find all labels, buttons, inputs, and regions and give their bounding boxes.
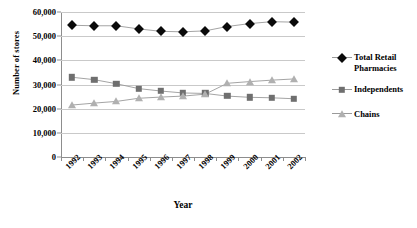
data-point-marker (223, 79, 231, 86)
y-axis-tick-label: 40,000 (33, 55, 56, 65)
data-point-marker (201, 90, 209, 97)
y-axis-tick-label: 30,000 (33, 80, 56, 90)
legend-label-chains: Chains (354, 109, 417, 120)
data-point-marker (135, 94, 143, 101)
x-tick-mark (238, 157, 239, 161)
legend-key-triangle (332, 113, 352, 114)
x-tick-mark (105, 157, 106, 161)
x-tick-mark (283, 157, 284, 161)
data-point-marker (246, 94, 252, 100)
x-tick-mark (194, 157, 195, 161)
x-tick-mark (61, 157, 62, 161)
x-tick-mark (261, 157, 262, 161)
y-axis-tick-label: 50,000 (33, 31, 56, 41)
y-axis-tick-label: 10,000 (33, 128, 56, 138)
data-point-marker (135, 85, 141, 91)
y-axis-tick-label: 0 (52, 152, 56, 162)
diamond-marker-icon (337, 53, 347, 63)
legend-item-chains: Chains (332, 109, 417, 120)
data-point-marker (268, 76, 276, 83)
plot-area: 010,00020,00030,00040,00050,00060,000 19… (61, 12, 305, 157)
data-point-marker (69, 74, 75, 80)
data-point-marker (112, 98, 120, 105)
legend-key-square (332, 89, 352, 90)
data-point-marker (90, 99, 98, 106)
pharmacy-store-count-chart: Number of stores 010,00020,00030,00040,0… (0, 0, 417, 228)
legend-item-total-retail-pharmacies: Total Retail Pharmacies (332, 52, 417, 73)
x-axis-title: Year (61, 200, 305, 210)
legend-item-independents: Independents (332, 84, 417, 95)
data-point-marker (291, 96, 297, 102)
legend-label-total-retail-pharmacies: Total Retail Pharmacies (354, 52, 417, 73)
legend-label-independents: Independents (354, 84, 417, 95)
legend-key-diamond (332, 57, 352, 58)
data-point-marker (290, 75, 298, 82)
chart-legend: Total Retail Pharmacies Independents Cha… (332, 52, 417, 130)
x-tick-mark (305, 157, 306, 161)
x-tick-mark (83, 157, 84, 161)
y-axis-tick-label: 20,000 (33, 104, 56, 114)
square-marker-icon (339, 86, 345, 92)
data-point-marker (269, 95, 275, 101)
data-point-marker (157, 93, 165, 100)
x-tick-mark (172, 157, 173, 161)
y-axis-tick-label: 60,000 (33, 7, 56, 17)
data-point-marker (246, 78, 254, 85)
data-point-marker (224, 93, 230, 99)
data-point-marker (68, 101, 76, 108)
data-point-marker (91, 76, 97, 82)
triangle-marker-icon (338, 110, 346, 117)
x-tick-mark (150, 157, 151, 161)
data-point-marker (179, 92, 187, 99)
x-tick-mark (216, 157, 217, 161)
x-tick-mark (128, 157, 129, 161)
y-axis-title: Number of stores (11, 13, 21, 113)
data-point-marker (113, 81, 119, 87)
